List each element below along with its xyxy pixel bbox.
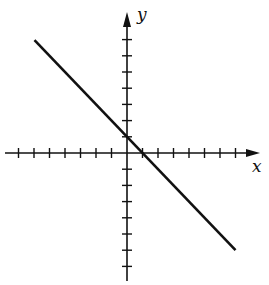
x-axis <box>5 149 260 157</box>
coordinate-plane: x y <box>0 0 269 285</box>
y-axis <box>123 12 131 281</box>
y-axis-arrow-icon <box>123 12 131 27</box>
data-line <box>35 40 236 250</box>
y-axis-label: y <box>136 4 147 24</box>
series-line <box>35 40 236 250</box>
x-axis-label: x <box>252 156 262 176</box>
